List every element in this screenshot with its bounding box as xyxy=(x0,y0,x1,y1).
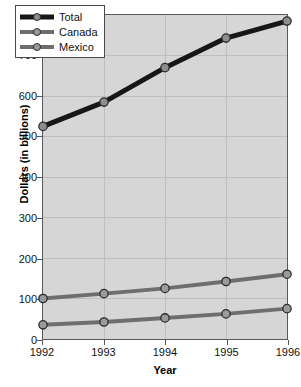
chart-legend: TotalCanadaMexico xyxy=(15,5,105,58)
y-axis-title: Dollars (in billions) xyxy=(18,74,30,234)
x-axis-tick-label: 1992 xyxy=(19,346,65,358)
legend-swatch-icon xyxy=(20,11,54,23)
legend-swatch-icon xyxy=(20,41,54,53)
x-axis-tickmark xyxy=(165,340,166,345)
legend-item: Canada xyxy=(20,24,98,39)
legend-item: Mexico xyxy=(20,39,98,54)
data-series-layer xyxy=(43,15,287,339)
y-axis-tick-label: 100 xyxy=(5,294,37,305)
x-axis-tickmark xyxy=(42,340,43,345)
x-axis-tick-label: 1994 xyxy=(142,346,188,358)
x-axis-tick-label: 1996 xyxy=(265,346,301,358)
y-axis-tick-label: 200 xyxy=(5,254,37,265)
legend-item-label: Mexico xyxy=(59,41,94,53)
x-axis-tickmark xyxy=(288,340,289,345)
legend-item: Total xyxy=(20,9,98,24)
legend-swatch-icon xyxy=(20,26,54,38)
legend-marker-icon xyxy=(33,13,41,21)
plot-area xyxy=(42,14,288,340)
legend-marker-icon xyxy=(33,43,41,51)
x-axis-tickmark xyxy=(104,340,105,345)
x-axis-tickmark xyxy=(227,340,228,345)
x-axis-tick-label: 1993 xyxy=(81,346,127,358)
x-axis-tick-label: 1995 xyxy=(204,346,250,358)
legend-item-label: Canada xyxy=(59,26,98,38)
y-axis-tick-label: 0 xyxy=(5,335,37,346)
legend-item-label: Total xyxy=(59,11,82,23)
legend-marker-icon xyxy=(33,28,41,36)
x-axis-title: Year xyxy=(42,364,288,376)
x-axis-tick-labels: 19921993199419951996 xyxy=(42,340,288,362)
line-chart: 0100200300400500600700800 19921993199419… xyxy=(0,0,301,387)
